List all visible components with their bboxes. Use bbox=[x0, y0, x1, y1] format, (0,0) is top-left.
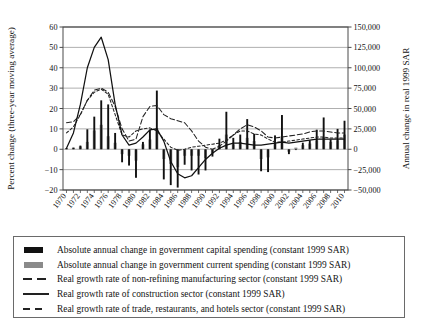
y-axis-title-right: Annual change in real 1999 SAR bbox=[401, 47, 411, 170]
bar-capital-spending bbox=[100, 100, 102, 149]
legend-item-trade-hotels: Real growth rate of trade, restaurants, … bbox=[22, 301, 396, 316]
legend-swatch-current-bar-icon bbox=[22, 258, 52, 272]
ytick-label-right: 125,000 bbox=[354, 43, 381, 52]
legend-swatch-capital-bar-icon bbox=[22, 243, 52, 257]
bar-capital-spending bbox=[156, 91, 158, 150]
ytick-label-left: 0 bbox=[53, 145, 57, 154]
legend-label-current-spending: Absolute annual change in government cur… bbox=[57, 259, 350, 271]
xtick-label: 2008 bbox=[315, 192, 332, 210]
bar-capital-spending bbox=[121, 149, 123, 162]
bar-capital-spending bbox=[128, 149, 130, 165]
bar-capital-spending bbox=[288, 149, 290, 154]
bar-current-spending bbox=[294, 148, 297, 150]
ytick-label-left: 30 bbox=[49, 84, 57, 93]
bar-capital-spending bbox=[239, 135, 241, 150]
ytick-label-left: 10 bbox=[49, 125, 57, 134]
bar-capital-spending bbox=[142, 142, 144, 149]
ytick-label-left: 40 bbox=[49, 64, 57, 73]
bar-capital-spending bbox=[107, 104, 109, 149]
legend-label-capital-spending: Absolute annual change in government cap… bbox=[57, 244, 349, 256]
ytick-label-left: 50 bbox=[49, 43, 57, 52]
xtick-label: 1980 bbox=[120, 192, 137, 210]
legend-item-current-spending: Absolute annual change in government cur… bbox=[22, 258, 396, 273]
xtick-label: 2002 bbox=[273, 192, 290, 210]
ytick-label-left: −20 bbox=[45, 186, 58, 195]
legend-line-dashed-short-icon bbox=[22, 302, 52, 316]
ytick-label-left: −10 bbox=[45, 166, 58, 175]
xtick-label: 2004 bbox=[287, 192, 304, 210]
bar-capital-spending bbox=[225, 112, 227, 149]
bar-capital-spending bbox=[177, 149, 179, 187]
xtick-label: 1978 bbox=[106, 192, 123, 210]
bar-capital-spending bbox=[114, 133, 116, 149]
bar-capital-spending bbox=[72, 148, 74, 150]
ytick-label-right: 75,000 bbox=[354, 84, 377, 93]
bar-capital-spending bbox=[184, 149, 186, 164]
bar-capital-spending bbox=[93, 117, 95, 150]
ytick-label-right: −25,000 bbox=[354, 166, 381, 175]
legend-item-manufacturing: Real growth rate of non-refining manufac… bbox=[22, 272, 396, 287]
bar-capital-spending bbox=[330, 139, 332, 149]
bar-capital-spending bbox=[79, 146, 81, 150]
legend-label-construction: Real growth rate of construction sector … bbox=[57, 288, 285, 300]
xtick-label: 1982 bbox=[134, 192, 151, 210]
ytick-label-left: 20 bbox=[49, 105, 57, 114]
bar-capital-spending bbox=[163, 149, 165, 179]
ytick-label-right: 0 bbox=[354, 145, 358, 154]
xtick-label: 2006 bbox=[301, 192, 318, 210]
chart-plot-figure: 6050403020100−10−20150,000125,000100,000… bbox=[0, 0, 421, 225]
xtick-label: 1996 bbox=[232, 192, 249, 210]
bar-capital-spending bbox=[281, 115, 283, 149]
xtick-label: 1990 bbox=[190, 192, 207, 210]
chart-figure-root: 6050403020100−10−20150,000125,000100,000… bbox=[0, 0, 421, 331]
ytick-label-right: 50,000 bbox=[354, 105, 377, 114]
bar-capital-spending bbox=[267, 149, 269, 172]
ytick-label-right: 25,000 bbox=[354, 125, 377, 134]
legend-item-capital-spending: Absolute annual change in government cap… bbox=[22, 243, 396, 258]
legend-line-solid-icon bbox=[22, 287, 52, 301]
ytick-label-right: −50,000 bbox=[354, 186, 381, 195]
bar-capital-spending bbox=[149, 130, 151, 150]
xtick-label: 1992 bbox=[204, 192, 221, 210]
bar-capital-spending bbox=[253, 134, 255, 149]
ytick-label-left: 60 bbox=[49, 23, 57, 32]
chart-legend: Absolute annual change in government cap… bbox=[13, 236, 405, 318]
bar-capital-spending bbox=[302, 143, 304, 150]
xtick-label: 1986 bbox=[162, 192, 179, 210]
legend-label-manufacturing: Real growth rate of non-refining manufac… bbox=[57, 273, 342, 285]
ytick-label-right: 150,000 bbox=[354, 23, 381, 32]
bar-capital-spending bbox=[198, 149, 200, 174]
xtick-label: 1974 bbox=[79, 192, 96, 210]
legend-item-construction: Real growth rate of construction sector … bbox=[22, 287, 396, 302]
bar-capital-spending bbox=[191, 149, 193, 170]
xtick-label: 2000 bbox=[259, 192, 276, 210]
xtick-label: 1972 bbox=[65, 192, 82, 210]
bar-capital-spending bbox=[344, 121, 346, 150]
bar-capital-spending bbox=[260, 149, 262, 171]
bar-capital-spending bbox=[295, 149, 297, 150]
xtick-label: 1988 bbox=[176, 192, 193, 210]
y-axis-title-left: Percent change (three-year moving averag… bbox=[6, 27, 16, 190]
bar-capital-spending bbox=[135, 149, 137, 178]
bar-capital-spending bbox=[309, 140, 311, 149]
legend-line-dashed-long-icon bbox=[22, 272, 52, 286]
xtick-label: 1984 bbox=[148, 192, 165, 210]
xtick-label: 2010 bbox=[329, 192, 346, 210]
bar-capital-spending bbox=[170, 149, 172, 185]
xtick-label: 1998 bbox=[246, 192, 263, 210]
xtick-label: 1976 bbox=[93, 192, 110, 210]
chart-svg-canvas: 6050403020100−10−20150,000125,000100,000… bbox=[0, 0, 421, 225]
legend-label-trade-hotels: Real growth rate of trade, restaurants, … bbox=[57, 303, 345, 315]
xtick-label: 1994 bbox=[218, 192, 235, 210]
bar-capital-spending bbox=[323, 117, 325, 149]
bar-capital-spending bbox=[86, 129, 88, 149]
ytick-label-right: 100,000 bbox=[354, 64, 381, 73]
